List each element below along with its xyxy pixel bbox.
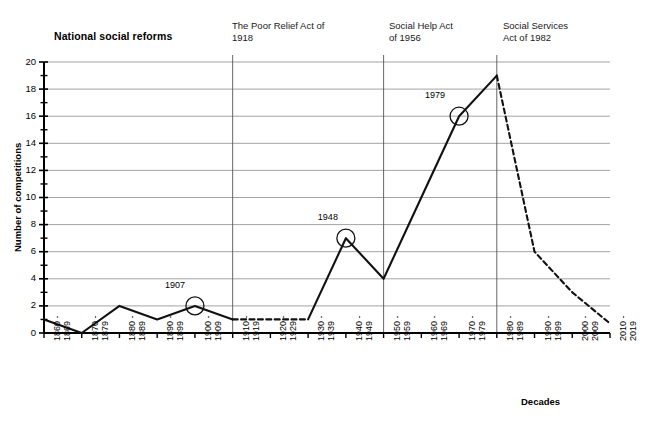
gridlines (44, 62, 610, 333)
marker-label-1907: 1907 (165, 280, 185, 290)
y-tick-label: 0 (14, 327, 36, 338)
annotation-label-3: Social Services Act of 1982 (503, 20, 603, 43)
y-tick-label: 16 (14, 110, 36, 121)
annotation-label-1: The Poor Relief Act of 1918 (232, 20, 342, 43)
x-tick-label: 1910 -1919 (241, 315, 261, 341)
x-tick-label: 1900 -1909 (203, 315, 223, 341)
x-tick-label: 1940 -1949 (354, 315, 374, 341)
x-tick-label: 1890 -1899 (165, 315, 185, 341)
x-tick-label: 2010 -2019 (618, 315, 638, 341)
data-line-dashed (497, 76, 610, 324)
data-markers (186, 107, 468, 315)
marker-label-1948: 1948 (318, 212, 338, 222)
x-tick-label: 1950 -1959 (392, 315, 412, 341)
x-tick-label: 1970 -1979 (467, 315, 487, 341)
y-ticks (39, 62, 48, 333)
x-tick-label: 1920 -1929 (278, 315, 298, 341)
chart-figure: 024681012141618201860 -18691870 -1879188… (0, 0, 648, 423)
x-tick-label: 1880 -1889 (127, 315, 147, 341)
annotation-label-0: National social reforms (54, 30, 224, 42)
annotation-label-2: Social Help Act of 1956 (389, 20, 494, 43)
x-tick-label: 1990 -1999 (543, 315, 563, 341)
y-tick-label: 4 (14, 272, 36, 283)
x-tick-label: 1870 -1879 (90, 315, 110, 341)
y-tick-label: 20 (14, 56, 36, 67)
x-tick-label: 1980 -1989 (505, 315, 525, 341)
data-series (44, 76, 610, 333)
y-tick-label: 2 (14, 299, 36, 310)
marker-label-1979: 1979 (425, 90, 445, 100)
x-tick-label: 1930 -1939 (316, 315, 336, 341)
x-tick-label: 1960 -1969 (429, 315, 449, 341)
y-tick-label: 18 (14, 83, 36, 94)
annotation-dividers (233, 55, 497, 333)
y-axis-title: Number of competitions (12, 142, 23, 251)
x-tick-label: 2000 -2009 (580, 315, 600, 341)
x-tick-label: 1860 -1869 (52, 315, 72, 341)
x-axis-title: Decades (521, 396, 560, 407)
